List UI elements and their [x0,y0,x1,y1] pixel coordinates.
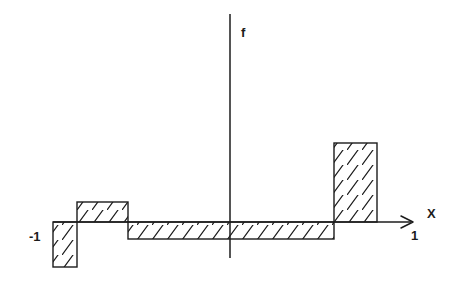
y-axis-label: f [241,25,246,40]
bar-segment-4-hatch [334,143,377,222]
bar-segment-1 [53,222,77,267]
x-tick-label-one: 1 [411,228,418,243]
bar-segment-3-hatch [128,222,334,239]
bar-segment-1-hatch [53,222,77,267]
bar-segment-2-hatch [77,202,128,222]
x-tick-label-minus-one: -1 [29,229,41,244]
bar-segment-2 [77,202,128,222]
figure-canvas: f X -1 1 [0,0,461,284]
bar-segment-4 [334,143,377,222]
step-function-plot: f X -1 1 [0,0,461,284]
x-axis-label: X [427,206,436,221]
bar-segment-3 [128,222,334,239]
